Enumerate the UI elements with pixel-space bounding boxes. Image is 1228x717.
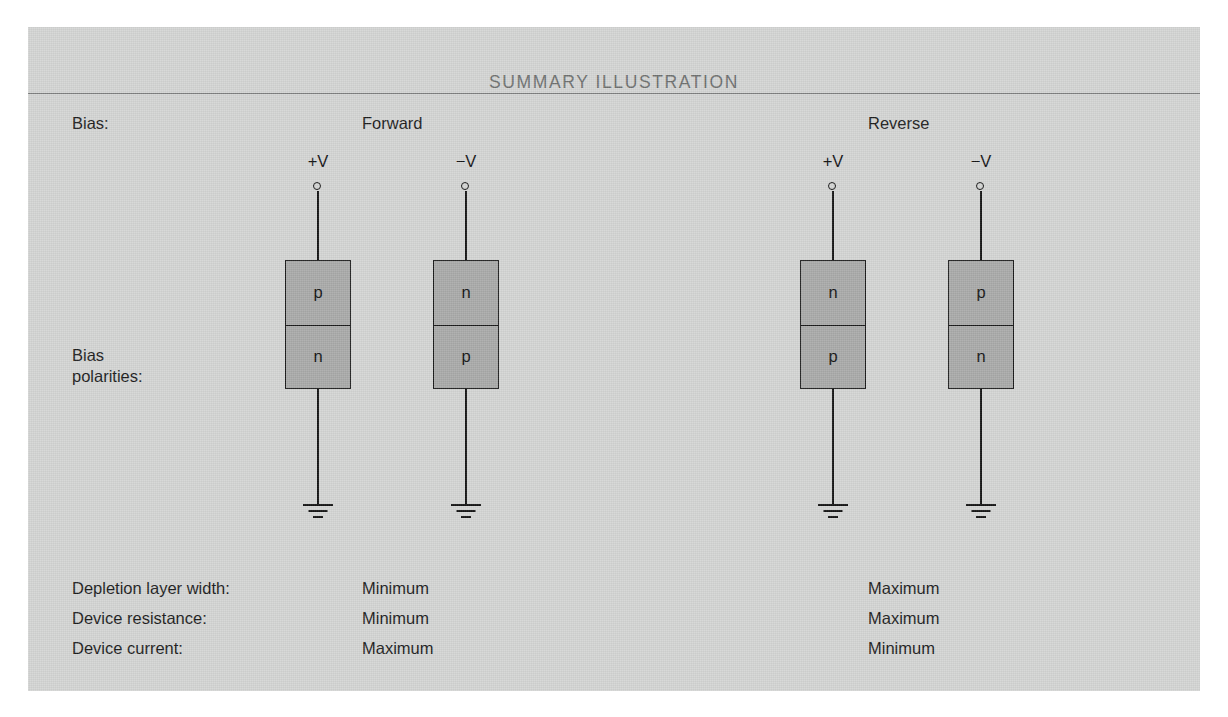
bias-polarities-label-line1: Bias [72, 345, 143, 366]
semiconductor-region-bottom: n [286, 325, 350, 389]
supply-label: −V [433, 152, 499, 171]
summary-row-reverse-value: Maximum [868, 609, 940, 628]
bias-row-label: Bias: [72, 113, 109, 134]
figure-panel: SUMMARY ILLUSTRATION Bias: Bias polariti… [28, 27, 1200, 691]
terminal-node-icon [313, 182, 321, 190]
pn-junction-body: p n [285, 260, 351, 389]
pn-junction-body: n p [433, 260, 499, 389]
lead-wire-top [832, 191, 834, 261]
terminal-node-icon [828, 182, 836, 190]
bias-polarities-label-line2: polarities: [72, 366, 143, 387]
lead-wire-bottom [832, 388, 834, 505]
figure-title: SUMMARY ILLUSTRATION [28, 72, 1200, 93]
supply-label: +V [800, 152, 866, 171]
summary-row-label: Device current: [72, 639, 183, 658]
semiconductor-region-bottom: n [949, 325, 1013, 389]
semiconductor-region-top: n [434, 261, 498, 325]
semiconductor-region-top: p [286, 261, 350, 325]
summary-row-forward-value: Maximum [362, 639, 434, 658]
column-header-forward: Forward [362, 113, 423, 134]
supply-label: +V [285, 152, 351, 171]
title-divider [28, 93, 1200, 94]
summary-row-label: Device resistance: [72, 609, 207, 628]
pn-junction-body: p n [948, 260, 1014, 389]
lead-wire-top [317, 191, 319, 261]
summary-row-forward-value: Minimum [362, 579, 429, 598]
lead-wire-top [465, 191, 467, 261]
summary-illustration-figure: SUMMARY ILLUSTRATION Bias: Bias polariti… [0, 0, 1228, 717]
summary-row-reverse-value: Minimum [868, 639, 935, 658]
summary-row-forward-value: Minimum [362, 609, 429, 628]
semiconductor-region-bottom: p [801, 325, 865, 389]
supply-label: −V [948, 152, 1014, 171]
pn-junction-body: n p [800, 260, 866, 389]
terminal-node-icon [461, 182, 469, 190]
summary-row-reverse-value: Maximum [868, 579, 940, 598]
lead-wire-bottom [465, 388, 467, 505]
terminal-node-icon [976, 182, 984, 190]
semiconductor-region-top: p [949, 261, 1013, 325]
semiconductor-region-top: n [801, 261, 865, 325]
lead-wire-bottom [980, 388, 982, 505]
semiconductor-region-bottom: p [434, 325, 498, 389]
bias-polarities-row-label: Bias polarities: [72, 345, 143, 387]
lead-wire-bottom [317, 388, 319, 505]
lead-wire-top [980, 191, 982, 261]
summary-row-label: Depletion layer width: [72, 579, 230, 598]
column-header-reverse: Reverse [868, 113, 929, 134]
